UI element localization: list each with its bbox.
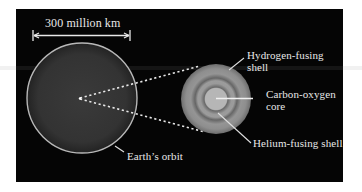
sun-center-point [79, 97, 81, 99]
hydrogen-shell-label-line1: Hydrogen-fusing [247, 49, 324, 61]
helium-shell-label: Helium-fusing shell [253, 137, 343, 149]
earth-orbit-label: Earth’s orbit [127, 150, 183, 162]
core-label-line1: Carbon-oxygen [266, 88, 336, 100]
core-label-line2: core [266, 100, 285, 112]
scale-bar [33, 30, 130, 41]
hydrogen-shell-label-line2: shell [247, 61, 268, 73]
earth-orbit-leader [115, 146, 124, 152]
scale-bar-label: 300 million km [45, 17, 120, 29]
